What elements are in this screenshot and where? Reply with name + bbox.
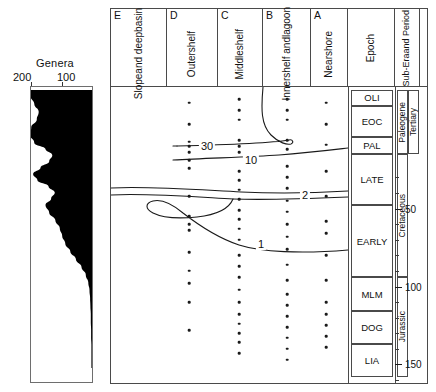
header-code-B: B <box>266 10 273 21</box>
epoch-cell-oli: OLI <box>351 90 393 106</box>
occurrence-dot <box>238 118 241 121</box>
occurrence-dot <box>238 254 241 257</box>
header-code-C: C <box>221 10 229 21</box>
contour-label-10: 10 <box>243 154 259 166</box>
axis-tick-minor <box>395 177 399 178</box>
axis-tick-minor <box>395 349 399 350</box>
period-cell-tertiary: Tertiary <box>408 90 419 154</box>
occurrence-dot <box>286 263 289 266</box>
occurrence-dot <box>188 145 191 148</box>
occurrence-dot <box>325 170 328 173</box>
occurrence-dot <box>188 140 191 143</box>
occurrence-dot <box>286 176 289 179</box>
occurrence-dot <box>238 313 241 316</box>
occurrence-dot <box>238 341 241 344</box>
genera-title: Genera <box>36 57 74 69</box>
occurrence-dot <box>238 145 241 148</box>
occurrence-dot <box>188 301 191 304</box>
genera-axis-tick-100: 100 <box>57 71 75 83</box>
occurrence-dot <box>325 324 328 327</box>
occurrence-dot <box>325 335 328 338</box>
epoch-cell-lia: LIA <box>351 344 393 377</box>
time-axis-ma-bp: 50100150200 <box>395 165 429 383</box>
occurrence-dot <box>238 179 241 182</box>
occurrence-dot <box>286 326 289 329</box>
axis-tick-major <box>395 209 402 210</box>
header-cell-E: E Slopeand deepbasin <box>111 9 167 87</box>
header-cell-epoch: Epoch <box>348 9 395 87</box>
occurrence-dot <box>238 189 241 192</box>
occurrence-dot <box>238 170 241 173</box>
axis-tick-label-100: 100 <box>405 281 422 292</box>
occurrence-dot <box>286 235 289 238</box>
occurrence-dot <box>286 187 289 190</box>
occurrence-dot <box>325 313 328 316</box>
axis-tick-major <box>395 287 402 288</box>
axis-tick-minor <box>395 318 399 319</box>
occurrence-dot <box>238 218 241 221</box>
header-code-A: A <box>314 10 321 21</box>
occurrence-dot <box>238 238 241 241</box>
subera-cell-paleogene: Paleogene <box>397 90 408 154</box>
header-code-D: D <box>170 10 178 21</box>
axis-tick-minor <box>395 333 399 334</box>
occurrence-dot <box>188 282 191 285</box>
header-cell-B: B Innershelf andlagoon <box>263 9 311 87</box>
epoch-cell-dog: DOG <box>351 311 393 344</box>
occurrence-dot <box>238 301 241 304</box>
period-label: Tertiary <box>408 108 420 136</box>
header-label-subera: Sub-Eraand Period <box>401 10 413 87</box>
header-code-E: E <box>114 10 121 21</box>
occurrence-dot <box>286 139 289 142</box>
occurrence-dot <box>188 270 191 273</box>
epoch-cell-late: LATE <box>351 154 393 205</box>
header-cell-A: A Nearshore <box>311 9 348 87</box>
header-cell-subera: Sub-Eraand Period <box>395 9 420 87</box>
header-label-C: Middleshelf <box>234 29 246 80</box>
occurrence-dot <box>188 159 191 162</box>
occurrence-dot <box>238 332 241 335</box>
occurrence-dot <box>286 304 289 307</box>
occurrence-dot <box>325 101 328 104</box>
occurrence-dot <box>238 227 241 230</box>
header-cell-C: C Middleshelf <box>218 9 263 87</box>
subera-label: Paleogene <box>397 102 409 143</box>
occurrence-dot <box>238 265 241 268</box>
figure-root: Genera 200 100 E Slopeand deepbasin D Ou… <box>0 0 436 392</box>
column-separator-epoch <box>348 87 349 383</box>
genera-axis-tick-200: 200 <box>13 71 31 83</box>
epoch-cell-pal: PAL <box>351 137 393 154</box>
header-label-E: Slopeand deepbasin <box>133 8 145 99</box>
occurrence-dot <box>325 301 328 304</box>
occurrence-dot <box>325 143 328 146</box>
contour-path <box>147 199 348 252</box>
occurrence-dot <box>325 123 328 126</box>
occurrence-dot <box>188 123 191 126</box>
occurrence-dot <box>238 109 241 112</box>
occurrence-dot <box>286 118 289 121</box>
occurrence-dot <box>238 288 241 291</box>
occurrence-dot <box>325 220 328 223</box>
occurrence-dot <box>238 198 241 201</box>
epoch-cell-early: EARLY <box>351 205 393 277</box>
occurrence-dot <box>238 323 241 326</box>
occurrence-dot <box>238 209 241 212</box>
header-cell-D: D Outershelf <box>167 9 218 87</box>
occurrence-dot <box>188 329 191 332</box>
occurrence-dot <box>325 232 328 235</box>
occurrence-dot <box>286 293 289 296</box>
occurrence-dot <box>188 215 191 218</box>
occurrence-dot <box>188 195 191 198</box>
occurrence-dot <box>286 223 289 226</box>
occurrence-dot <box>188 151 191 154</box>
axis-tick-minor <box>395 380 399 381</box>
contour-label-30: 30 <box>199 140 215 152</box>
axis-tick-label-150: 150 <box>405 359 422 370</box>
chart-header-row: E Slopeand deepbasin D Outershelf C Midd… <box>111 9 427 87</box>
occurrence-dot <box>286 199 289 202</box>
contour-label-2: 2 <box>300 189 310 201</box>
occurrence-dot <box>325 279 328 282</box>
header-label-epoch: Epoch <box>365 34 377 62</box>
occurrence-dot <box>188 251 191 254</box>
occurrence-dot <box>286 358 289 361</box>
